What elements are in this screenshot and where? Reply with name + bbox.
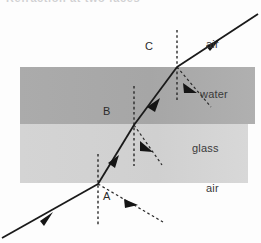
diagram-canvas (0, 0, 261, 243)
label-glass: glass (192, 142, 219, 154)
label-water: water (200, 88, 228, 100)
refraction-diagram: Refraction at two faces (0, 0, 261, 243)
incident-ray-segment (2, 184, 98, 238)
label-air-bottom: air (206, 182, 219, 194)
label-air-top: air (206, 38, 219, 50)
point-label-a: A (103, 190, 110, 202)
point-label-c: C (145, 40, 153, 52)
incident-ray-arrow (40, 212, 53, 226)
point-label-b: B (103, 105, 110, 117)
